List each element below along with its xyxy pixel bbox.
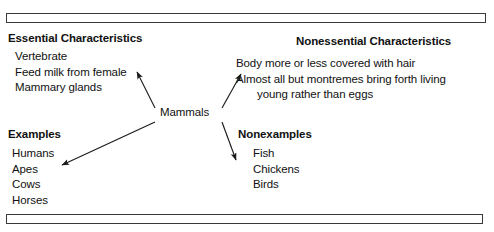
nonexamples-list: Fish Chickens Birds (253, 146, 300, 193)
list-item: Feed milk from female (15, 65, 127, 81)
nonessential-characteristics-list: Body more or less covered with hair Almo… (236, 56, 446, 103)
list-item: Apes (12, 162, 54, 178)
nonexamples-heading: Nonexamples (238, 128, 312, 141)
list-item: Almost all but montremes bring forth liv… (236, 72, 446, 88)
arrow-to-examples (62, 122, 155, 165)
examples-heading: Examples (8, 128, 61, 141)
list-item: Vertebrate (15, 49, 127, 65)
arrow-to-nonexamples (222, 122, 236, 160)
bottom-divider-bar (6, 214, 483, 224)
list-item: Horses (12, 193, 54, 209)
list-item: Birds (253, 177, 300, 193)
essential-characteristics-list: Vertebrate Feed milk from female Mammary… (15, 49, 127, 96)
arrow-to-essential (137, 72, 155, 108)
list-item: Fish (253, 146, 300, 162)
list-item: Mammary glands (15, 80, 127, 96)
examples-list: Humans Apes Cows Horses (12, 146, 54, 208)
list-item: Body more or less covered with hair (236, 56, 446, 72)
list-item: Cows (12, 177, 54, 193)
list-item: young rather than eggs (236, 87, 446, 103)
nonessential-characteristics-heading: Nonessential Characteristics (296, 35, 451, 48)
hub-node-mammals: Mammals (160, 106, 209, 118)
list-item: Humans (12, 146, 54, 162)
concept-map-page: Essential Characteristics Vertebrate Fee… (0, 0, 494, 232)
list-item: Chickens (253, 162, 300, 178)
top-divider-bar (6, 13, 486, 23)
essential-characteristics-heading: Essential Characteristics (8, 32, 142, 45)
